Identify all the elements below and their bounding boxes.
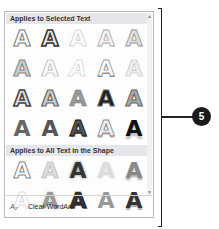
wordart-style-item[interactable]: A [64, 156, 92, 186]
wordart-row: A A A A A [8, 84, 148, 114]
wordart-style-item[interactable]: A [92, 114, 120, 144]
callout-bracket [158, 8, 162, 227]
wordart-row: A A A A A [8, 114, 148, 144]
wordart-style-item[interactable]: A [92, 156, 120, 186]
wordart-style-item[interactable]: A [120, 54, 148, 84]
wordart-style-item[interactable]: A [36, 156, 64, 186]
wordart-gallery-panel: Applies to Selected Text A A A A A A A A… [4, 11, 154, 218]
wordart-grid-selected-text: A A A A A A A A A A A A A A A A A A A A [8, 24, 148, 144]
section-header-selected-text: Applies to Selected Text [6, 13, 148, 24]
wordart-row: A A A A A [8, 54, 148, 84]
wordart-style-item[interactable]: A [92, 84, 120, 114]
wordart-style-item[interactable]: A [92, 54, 120, 84]
wordart-style-item[interactable]: A [92, 24, 120, 54]
wordart-style-item[interactable]: A [64, 24, 92, 54]
wordart-style-item[interactable]: A [120, 114, 148, 144]
wordart-style-item[interactable]: A [120, 84, 148, 114]
wordart-style-item[interactable]: A [64, 114, 92, 144]
wordart-style-item[interactable]: A [8, 24, 36, 54]
wordart-style-item[interactable]: A [64, 54, 92, 84]
wordart-style-item[interactable]: A [8, 84, 36, 114]
wordart-style-item[interactable]: A [8, 156, 36, 186]
wordart-style-item[interactable]: A [8, 114, 36, 144]
wordart-style-item[interactable]: A [8, 54, 36, 84]
callout-leader-line [162, 116, 194, 118]
wordart-style-item[interactable]: A [120, 24, 148, 54]
wordart-style-item[interactable]: A [120, 156, 148, 186]
wordart-row: A A A A A [8, 156, 148, 186]
wordart-style-item[interactable]: A [36, 54, 64, 84]
gallery-scrollbar[interactable]: ▲ ▼ [147, 13, 152, 195]
clear-wordart-button[interactable]: A₂ Clear WordArt [6, 195, 152, 216]
callout-number-badge: 5 [192, 107, 211, 126]
scroll-up-arrow-icon[interactable]: ▲ [147, 13, 152, 19]
wordart-row: A A A A A [8, 24, 148, 54]
wordart-style-item[interactable]: A [36, 84, 64, 114]
section-header-all-text: Applies to All Text in the Shape [6, 145, 148, 156]
wordart-style-item[interactable]: A [36, 24, 64, 54]
clear-wordart-label: Clear WordArt [28, 203, 72, 210]
wordart-style-item[interactable]: A [64, 84, 92, 114]
clear-wordart-icon: A₂ [10, 203, 22, 210]
wordart-style-item[interactable]: A [36, 114, 64, 144]
